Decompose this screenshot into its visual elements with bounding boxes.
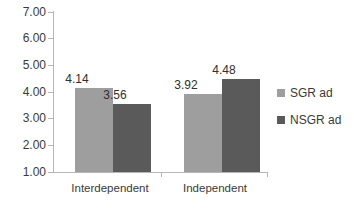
legend-swatch-icon-nsgr [277, 116, 285, 124]
bar-chart: 7.00 6.00 5.00 4.00 3.00 2.00 1.00 4.14 … [0, 0, 354, 208]
bar-value-label-independent-nsgr: 4.48 [205, 64, 243, 76]
bar-independent-nsgr[interactable] [222, 79, 260, 172]
plot-area [54, 12, 268, 172]
y-axis-label-4: 4.00 [0, 86, 46, 98]
y-axis-label-6: 6.00 [0, 32, 46, 44]
legend-item-sgr-ad[interactable]: SGR ad [277, 83, 353, 103]
y-axis-label-1: 1.00 [0, 166, 46, 178]
legend-label-nsgr: NSGR ad [290, 114, 341, 126]
x-tick-category-divider [161, 172, 162, 177]
bar-interdependent-nsgr[interactable] [113, 104, 151, 172]
y-axis-label-3: 3.00 [0, 112, 46, 124]
bar-value-label-independent-sgr: 3.92 [167, 79, 205, 91]
y-tick-1 [48, 172, 54, 173]
bar-value-label-interdependent-sgr: 4.14 [58, 73, 96, 85]
x-axis-category-interdependent: Interdependent [60, 182, 160, 195]
x-tick-axis-end [267, 172, 268, 177]
y-axis-label-7: 7.00 [0, 6, 46, 18]
legend: SGR ad NSGR ad [277, 83, 353, 137]
bar-independent-sgr[interactable] [184, 94, 222, 172]
x-axis-category-independent: Independent [167, 182, 263, 195]
legend-swatch-icon-sgr [277, 89, 285, 97]
legend-label-sgr: SGR ad [290, 87, 333, 99]
y-axis-label-2: 2.00 [0, 139, 46, 151]
legend-item-nsgr-ad[interactable]: NSGR ad [277, 110, 353, 130]
bar-value-label-interdependent-nsgr: 3.56 [96, 89, 134, 101]
y-axis-label-5: 5.00 [0, 59, 46, 71]
